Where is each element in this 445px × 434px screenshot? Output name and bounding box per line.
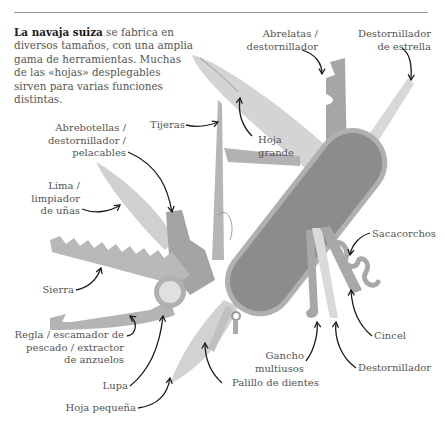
ruler: [50, 300, 175, 330]
label-magnifier: Lupa: [70, 380, 128, 393]
label-chisel: Cincel: [374, 330, 434, 343]
nail-file: [96, 162, 175, 250]
label-bottle-opener: Abrebotellas / destornillador / pelacabl…: [42, 122, 126, 160]
label-toothpick: Palillo de dientes: [232, 377, 342, 390]
label-saw: Sierra: [14, 284, 74, 297]
label-screwdriver: Destornillador: [358, 362, 438, 375]
label-small-blade: Hoja pequeña: [40, 402, 136, 415]
label-ruler: Regla / escamador de pescado / extractor…: [4, 329, 124, 367]
label-can-opener: Abrelatas / destornillador: [232, 28, 318, 53]
label-corkscrew: Sacacorchos: [372, 228, 445, 241]
label-multi-hook: Gancho multiusos: [250, 350, 304, 375]
label-nail-file: Lima / limpiador de uñas: [14, 180, 80, 218]
label-scissors: Tijeras: [150, 119, 210, 132]
label-phillips-screwdriver: Destornillador de estrella: [336, 28, 431, 53]
label-large-blade: Hoja grande: [258, 134, 318, 159]
